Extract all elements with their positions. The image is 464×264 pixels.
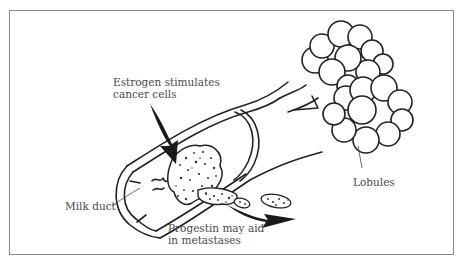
progestin-label-line2: in metastases xyxy=(168,234,264,246)
tumor-mass xyxy=(168,145,237,204)
metastatic-cells xyxy=(233,192,292,210)
lobules-label: Lobules xyxy=(353,176,395,188)
estrogen-label-line1: Estrogen stimulates xyxy=(113,76,220,88)
duct-branch-upper xyxy=(280,85,306,98)
progestin-label: Progestin may aid in metastases xyxy=(168,222,264,246)
progestin-label-line1: Progestin may aid xyxy=(168,222,264,234)
estrogen-label: Estrogen stimulates cancer cells xyxy=(113,76,220,100)
milk-duct-label: Milk duct xyxy=(65,200,116,212)
duct-opening-outer xyxy=(116,166,160,238)
estrogen-label-line2: cancer cells xyxy=(113,88,220,100)
estrogen-arrow-icon xyxy=(150,104,178,164)
